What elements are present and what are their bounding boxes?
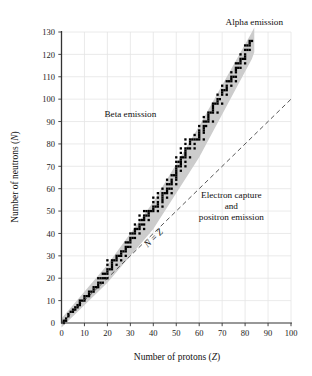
data-point — [106, 264, 108, 266]
data-point — [226, 85, 228, 87]
data-point — [175, 183, 177, 185]
data-point — [249, 42, 251, 44]
data-point — [111, 268, 113, 270]
data-point — [97, 286, 99, 288]
data-point — [95, 286, 97, 288]
data-point — [129, 246, 131, 248]
nuclide-stability-plot: 0102030405060708090100010203040506070809… — [0, 0, 312, 376]
y-axis-tick-label: 20 — [47, 273, 56, 283]
data-point — [157, 201, 159, 203]
data-point — [173, 174, 175, 176]
y-axis-tick-label: 90 — [47, 117, 56, 127]
data-point — [99, 277, 101, 279]
data-point — [115, 259, 117, 261]
data-point — [102, 273, 104, 275]
data-point — [175, 172, 177, 174]
data-point — [161, 197, 163, 199]
data-point — [175, 176, 177, 178]
data-point — [138, 226, 140, 228]
data-point — [239, 58, 241, 60]
data-point — [120, 255, 122, 257]
data-point — [67, 313, 69, 315]
x-axis-tick-label: 60 — [195, 328, 204, 338]
data-point — [212, 109, 214, 111]
data-point — [187, 147, 189, 149]
data-point — [83, 295, 85, 297]
data-point — [244, 55, 246, 57]
data-point — [127, 241, 129, 243]
data-point — [99, 282, 101, 284]
data-point — [65, 317, 67, 319]
data-point — [171, 192, 173, 194]
data-point — [106, 259, 108, 261]
data-point — [184, 149, 186, 151]
data-point — [129, 232, 131, 234]
data-point — [221, 102, 223, 104]
data-point — [129, 239, 131, 241]
data-point — [198, 138, 200, 140]
data-point — [83, 297, 85, 299]
data-point — [184, 156, 186, 158]
data-point — [212, 102, 214, 104]
data-point — [161, 205, 163, 207]
data-point — [244, 58, 246, 60]
data-point — [235, 62, 237, 64]
chart-figure: 0102030405060708090100010203040506070809… — [0, 0, 312, 376]
data-point — [226, 94, 228, 96]
annotation-and: and — [225, 201, 239, 211]
data-point — [235, 67, 237, 69]
x-axis-title: Number of protons (Z) — [134, 352, 220, 363]
data-point — [81, 299, 83, 301]
data-point — [134, 228, 136, 230]
y-axis-tick-label: 120 — [42, 50, 55, 60]
data-point — [143, 210, 145, 212]
data-point — [216, 102, 218, 104]
data-point — [136, 228, 138, 230]
data-point — [216, 94, 218, 96]
data-point — [145, 214, 147, 216]
data-point — [207, 120, 209, 122]
data-point — [90, 291, 92, 293]
data-point — [97, 282, 99, 284]
data-point — [239, 67, 241, 69]
x-axis-tick-label: 70 — [218, 328, 227, 338]
data-point — [249, 49, 251, 51]
data-point — [164, 192, 166, 194]
data-point — [184, 143, 186, 145]
data-point — [111, 259, 113, 261]
data-point — [166, 179, 168, 181]
y-axis-tick-label: 30 — [47, 251, 56, 261]
data-point — [70, 311, 72, 313]
y-axis-tick-label: 70 — [47, 162, 56, 172]
data-point — [175, 156, 177, 158]
data-point — [102, 282, 104, 284]
data-point — [65, 320, 67, 322]
data-point — [203, 127, 205, 129]
data-point — [230, 85, 232, 87]
data-point — [207, 114, 209, 116]
data-point — [125, 241, 127, 243]
data-point — [189, 138, 191, 140]
data-point — [79, 304, 81, 306]
data-point — [210, 111, 212, 113]
data-point — [152, 210, 154, 212]
data-point — [125, 255, 127, 257]
data-point — [148, 212, 150, 214]
data-point — [244, 49, 246, 51]
data-point — [203, 132, 205, 134]
data-point — [237, 62, 239, 64]
x-axis-tick-label: 30 — [126, 328, 135, 338]
data-point — [180, 165, 182, 167]
data-point — [216, 98, 218, 100]
data-point — [184, 165, 186, 167]
data-point — [166, 190, 168, 192]
data-point — [92, 288, 94, 290]
data-point — [161, 188, 163, 190]
data-point — [239, 60, 241, 62]
data-point — [111, 266, 113, 268]
data-point — [118, 255, 120, 257]
data-point — [184, 152, 186, 154]
svg-text:Number of protons (Z): Number of protons (Z) — [134, 352, 220, 363]
data-point — [113, 259, 115, 261]
data-point — [198, 136, 200, 138]
